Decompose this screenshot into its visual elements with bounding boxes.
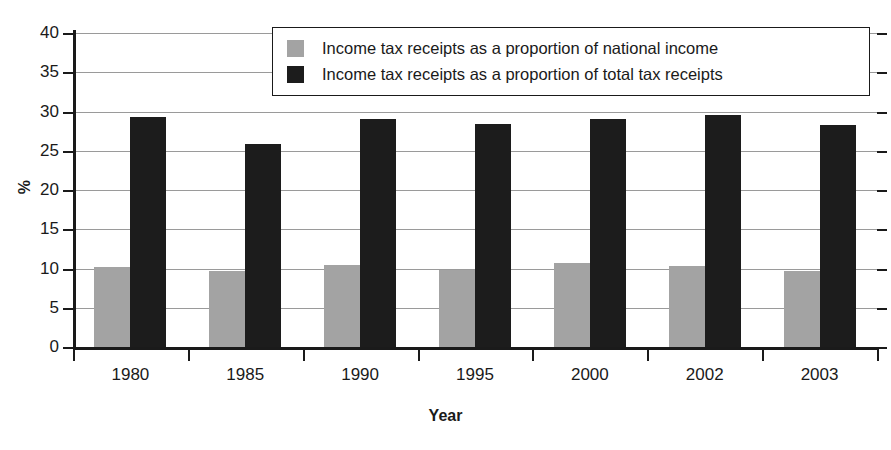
x-axis-tick (418, 350, 420, 361)
y-axis-tick (63, 308, 73, 310)
x-axis-tick (532, 350, 534, 361)
legend-label: Income tax receipts as a proportion of t… (322, 65, 723, 84)
x-axis-tick (188, 350, 190, 361)
y-axis-tick-label: 0 (19, 338, 59, 355)
y-axis-tick-right (877, 72, 887, 74)
bar (360, 119, 396, 347)
y-axis-tick (63, 112, 73, 114)
y-axis-tick-label-wrap: 30 (14, 103, 59, 121)
x-axis-tick (73, 350, 75, 361)
bar (94, 267, 130, 347)
legend-label: Income tax receipts as a proportion of n… (322, 39, 718, 58)
y-axis-tick (63, 151, 73, 153)
y-axis-tick-label: 40 (19, 24, 59, 41)
y-axis-tick (63, 33, 73, 35)
legend-swatch-icon (287, 66, 304, 83)
legend-swatch-icon (287, 40, 304, 57)
y-axis-tick-right (877, 308, 887, 310)
x-axis-title: Year (0, 407, 891, 425)
y-axis-tick-label-wrap: 20 (14, 181, 59, 199)
y-axis-tick-label: 10 (19, 260, 59, 277)
x-axis-tick (303, 350, 305, 361)
x-axis-tick-label: 2003 (762, 365, 877, 385)
y-axis-tick-label: 20 (19, 181, 59, 198)
bar (324, 265, 360, 347)
y-axis-tick-right (877, 190, 887, 192)
bar (820, 125, 856, 347)
bar (439, 270, 475, 347)
y-axis-tick-right (877, 229, 887, 231)
y-axis-tick-label: 30 (19, 103, 59, 120)
y-axis-tick-label: 35 (19, 63, 59, 80)
bar (475, 124, 511, 347)
x-axis-tick (647, 350, 649, 361)
y-axis-tick-right (877, 151, 887, 153)
x-axis-tick (877, 350, 879, 361)
y-axis-tick-right (877, 33, 887, 35)
y-axis-tick (63, 347, 73, 349)
y-axis-tick-label-wrap: 5 (14, 299, 59, 317)
bar (209, 271, 245, 347)
legend-item: Income tax receipts as a proportion of t… (287, 61, 859, 87)
y-axis-tick-label: 15 (19, 220, 59, 237)
y-axis-tick-label-wrap: 35 (14, 63, 59, 81)
bar (784, 271, 820, 347)
y-axis-tick (63, 229, 73, 231)
x-axis-tick (762, 350, 764, 361)
y-axis-tick-label-wrap: 40 (14, 24, 59, 42)
bar (245, 144, 281, 347)
x-axis-tick-label: 1995 (418, 365, 533, 385)
y-axis-tick (63, 269, 73, 271)
y-axis-tick (63, 72, 73, 74)
y-axis-tick-label: 25 (19, 142, 59, 159)
x-axis-tick-label: 2000 (532, 365, 647, 385)
bar (554, 263, 590, 347)
bar (705, 115, 741, 347)
x-axis-tick-label: 1990 (303, 365, 418, 385)
x-axis-line (73, 347, 879, 350)
y-axis-tick-label-wrap: 0 (14, 338, 59, 356)
y-axis-tick-right (877, 269, 887, 271)
y-axis-tick (63, 190, 73, 192)
x-axis-tick-label: 1980 (73, 365, 188, 385)
y-axis-tick-label-wrap: 15 (14, 220, 59, 238)
x-axis-tick-label: 2002 (647, 365, 762, 385)
x-axis-tick-label: 1985 (188, 365, 303, 385)
bar-chart: % 0510152025303540 198019851990199520002… (0, 0, 891, 450)
bar (130, 117, 166, 347)
y-axis-tick-label-wrap: 10 (14, 260, 59, 278)
bar (590, 119, 626, 347)
y-axis-tick-label-wrap: 25 (14, 142, 59, 160)
bar (669, 266, 705, 347)
y-axis-tick-label: 5 (19, 299, 59, 316)
y-axis-tick-right (877, 112, 887, 114)
legend: Income tax receipts as a proportion of n… (272, 27, 870, 96)
legend-item: Income tax receipts as a proportion of n… (287, 35, 859, 61)
